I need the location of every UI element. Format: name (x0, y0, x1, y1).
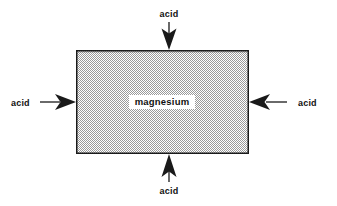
label-left-acid: acid (11, 98, 30, 108)
acid-attack-diagram: acid acid acid acid magnesium (0, 0, 337, 206)
label-bottom-acid: acid (160, 186, 179, 196)
diagram-canvas: acid acid acid acid magnesium (0, 0, 337, 206)
label-right-acid: acid (298, 98, 317, 108)
magnesium-label: magnesium (135, 96, 190, 107)
label-top-acid: acid (160, 9, 179, 19)
